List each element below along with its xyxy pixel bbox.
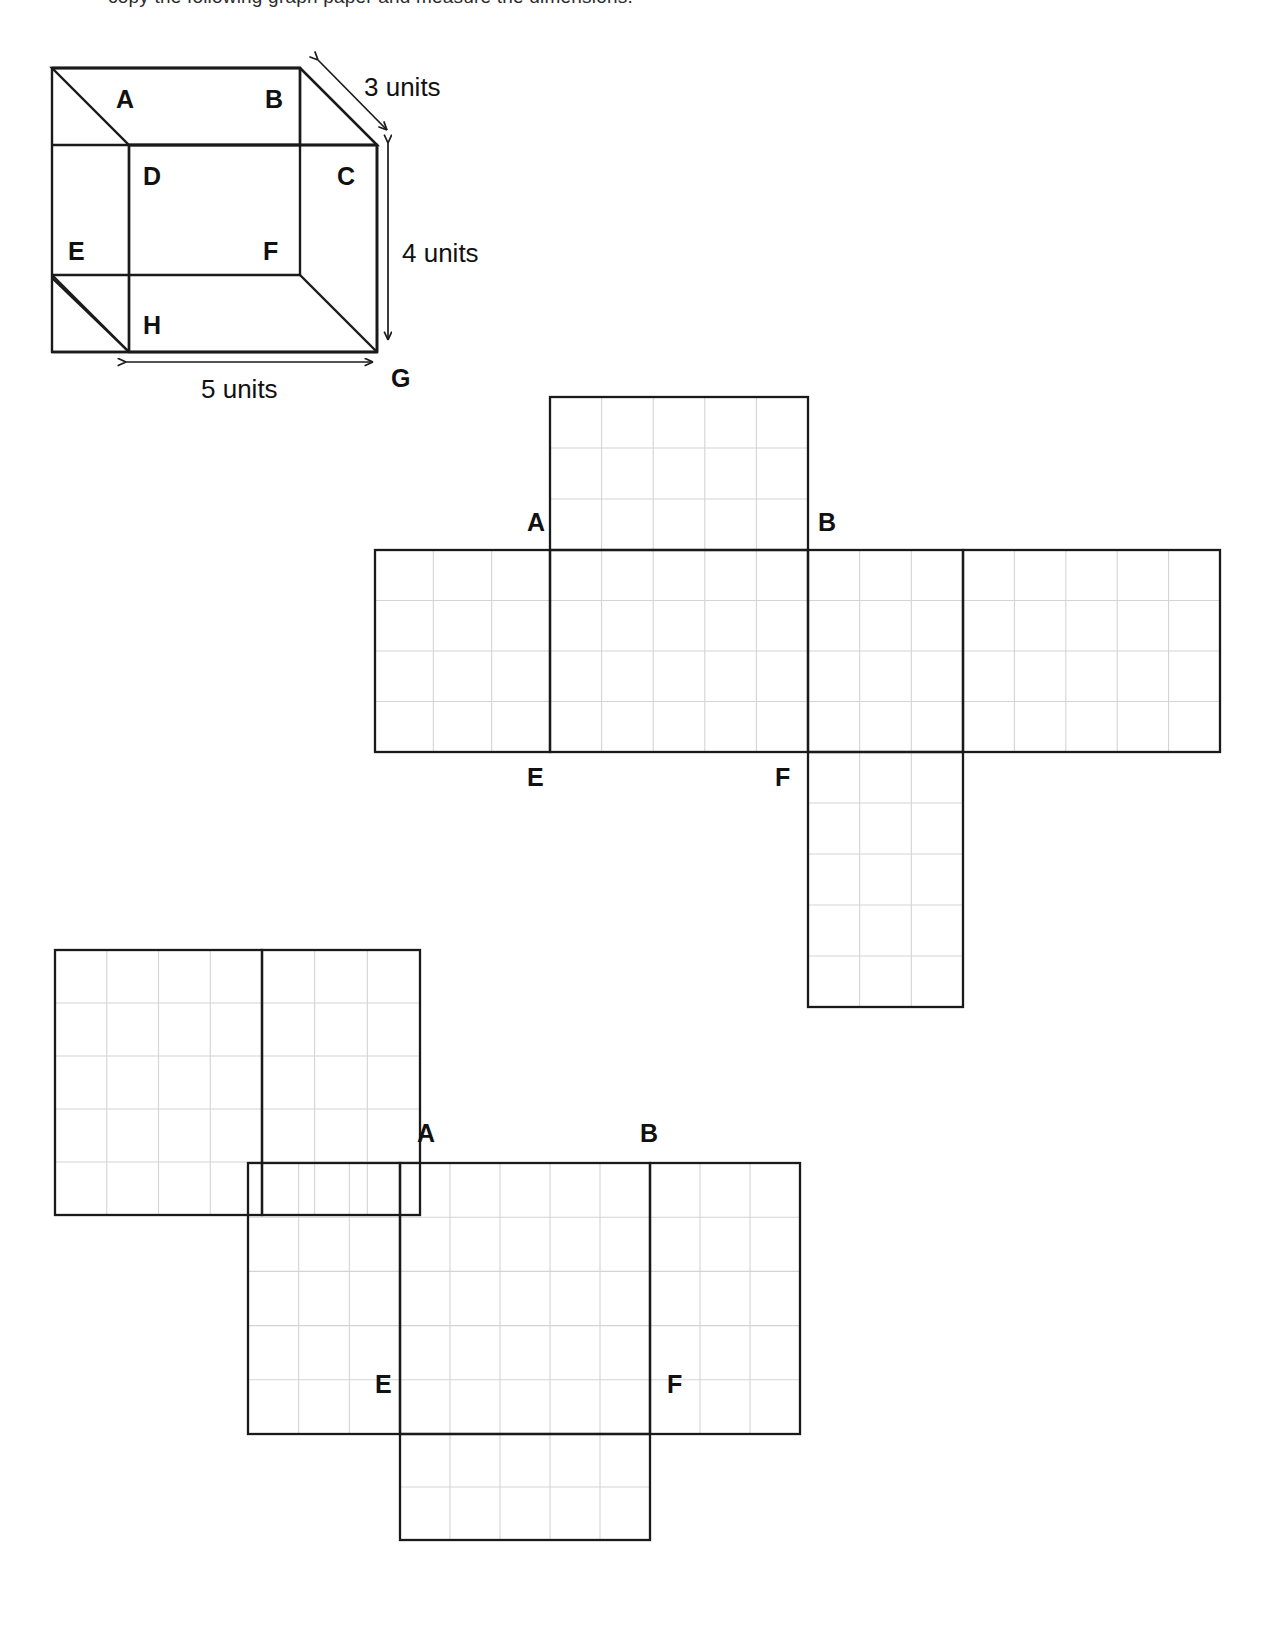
net-two-grid-lines <box>55 950 800 1540</box>
width-label: 5 units <box>201 374 278 404</box>
top-flap <box>550 397 808 550</box>
vertex-label-H: H <box>143 311 161 339</box>
height-label: 4 units <box>402 238 479 268</box>
figure-stage: copy the following graph paper and measu… <box>0 0 1276 1648</box>
vertex-label-C: C <box>337 162 355 190</box>
net-label-e: E <box>527 763 544 791</box>
net-label-f: F <box>667 1370 682 1398</box>
geometry-illustration: A B C D E F G H 3 units 4 units 5 units <box>0 0 1276 1648</box>
net-two-outlines <box>55 950 800 1540</box>
net-label-b: B <box>640 1119 658 1147</box>
mid-center-face <box>400 1163 650 1434</box>
depth-label: 3 units <box>364 72 441 102</box>
upper-right-face <box>262 950 420 1215</box>
net-label-a: A <box>527 508 545 536</box>
net-label-b: B <box>818 508 836 536</box>
vertex-label-B: B <box>265 85 283 113</box>
rectangular-prism-drawing <box>52 68 377 352</box>
net-label-e: E <box>375 1370 392 1398</box>
vertex-label-G: G <box>391 364 410 392</box>
truncated-header-text: copy the following graph paper and measu… <box>0 0 1276 8</box>
vertex-label-A: A <box>116 85 134 113</box>
prism-vertex-labels: A B C D E F G H <box>68 85 410 392</box>
dimension-labels: 3 units 4 units 5 units <box>201 72 479 404</box>
vertex-label-E: E <box>68 237 85 265</box>
net-label-f: F <box>775 763 790 791</box>
vertex-label-F: F <box>263 237 278 265</box>
net-one-grid-lines <box>375 397 1220 1007</box>
dimension-arrows <box>126 60 388 362</box>
vertex-label-D: D <box>143 162 161 190</box>
bottom-flap <box>808 752 963 1007</box>
net-label-a: A <box>417 1119 435 1147</box>
